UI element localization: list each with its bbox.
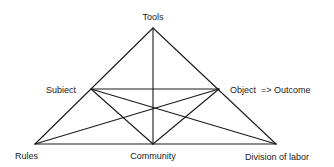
activity-system-diagram: Tools Subiect Object => Outcome Rules Co…: [0, 0, 334, 167]
label-division-of-labor: Division of labor: [245, 152, 309, 162]
label-subject: Subiect: [46, 85, 77, 95]
label-rules: Rules: [15, 151, 39, 161]
label-object-outcome: Object => Outcome: [230, 85, 311, 95]
edge-subject-division: [91, 89, 276, 144]
edge-subject-community: [91, 89, 153, 144]
diagram-canvas: Tools Subiect Object => Outcome Rules Co…: [0, 0, 334, 167]
labels: Tools Subiect Object => Outcome Rules Co…: [15, 12, 311, 162]
label-community: Community: [130, 151, 176, 161]
label-tools: Tools: [142, 12, 164, 22]
edge-object-community: [153, 89, 219, 144]
